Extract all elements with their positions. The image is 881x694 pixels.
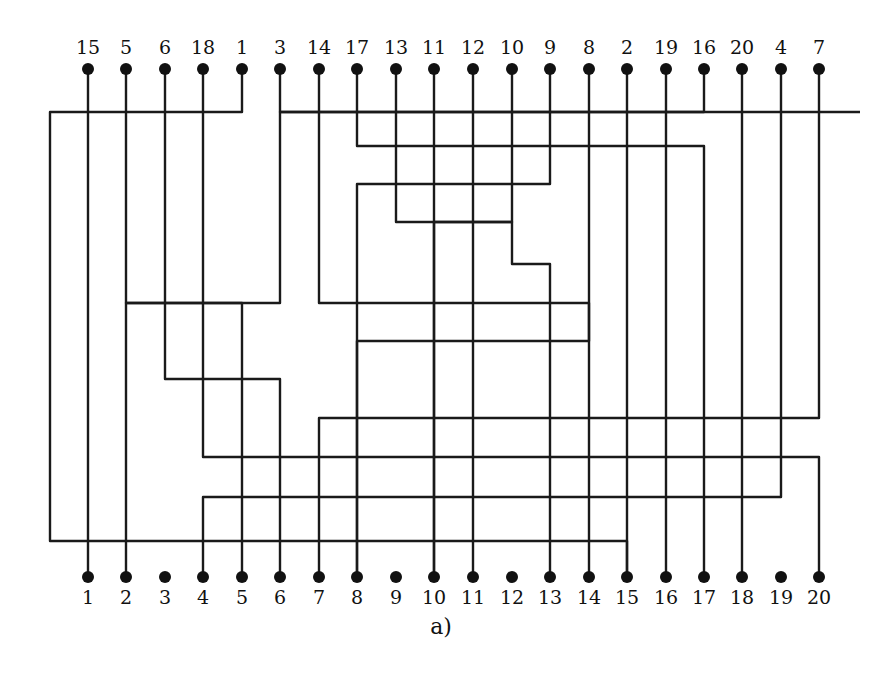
bottom-label: 3 bbox=[159, 586, 171, 608]
top-label: 15 bbox=[76, 36, 100, 58]
bottom-label: 4 bbox=[197, 586, 209, 608]
bottom-label: 7 bbox=[313, 586, 325, 608]
bottom-label: 19 bbox=[769, 586, 793, 608]
top-pin-icon bbox=[660, 63, 672, 75]
bottom-label: 16 bbox=[654, 586, 678, 608]
top-label: 4 bbox=[775, 36, 787, 58]
bottom-pin-icon bbox=[120, 571, 132, 583]
figure-caption: a) bbox=[430, 614, 452, 639]
top-pin-icon bbox=[506, 63, 518, 75]
bottom-pin-icon bbox=[313, 571, 325, 583]
bottom-label: 14 bbox=[577, 586, 601, 608]
bottom-pin-icon bbox=[698, 571, 710, 583]
bottom-pin-icon bbox=[351, 571, 363, 583]
top-label: 16 bbox=[692, 36, 716, 58]
bottom-pin-icon bbox=[197, 571, 209, 583]
top-pin-icon bbox=[621, 63, 633, 75]
top-label: 1 bbox=[236, 36, 248, 58]
top-pin-icon bbox=[698, 63, 710, 75]
bottom-label: 9 bbox=[390, 586, 402, 608]
wire-5 bbox=[126, 69, 242, 577]
top-pin-icon bbox=[351, 63, 363, 75]
top-label: 11 bbox=[422, 36, 446, 58]
bottom-pin-icon bbox=[775, 571, 787, 583]
bottom-pin-icon bbox=[82, 571, 94, 583]
bottom-pin-icon bbox=[621, 571, 633, 583]
top-label: 20 bbox=[730, 36, 754, 58]
top-pin-icon bbox=[274, 63, 286, 75]
bottom-label: 17 bbox=[692, 586, 716, 608]
wire-1 bbox=[50, 69, 242, 577]
bottom-label: 13 bbox=[538, 586, 562, 608]
bottom-label: 11 bbox=[461, 586, 485, 608]
bottom-pin-icon bbox=[813, 571, 825, 583]
bottom-label: 10 bbox=[422, 586, 446, 608]
top-label: 9 bbox=[544, 36, 556, 58]
bottom-label: 18 bbox=[730, 586, 754, 608]
top-pin-icon bbox=[736, 63, 748, 75]
bottom-pin-icon bbox=[390, 571, 402, 583]
top-label: 13 bbox=[384, 36, 408, 58]
top-pin-icon bbox=[390, 63, 402, 75]
bottom-pin-icon bbox=[428, 571, 440, 583]
top-pin-icon bbox=[313, 63, 325, 75]
top-pin-icon bbox=[813, 63, 825, 75]
wire-6 bbox=[165, 69, 280, 577]
top-label: 5 bbox=[120, 36, 132, 58]
top-label: 17 bbox=[345, 36, 369, 58]
top-pin-icon bbox=[583, 63, 595, 75]
top-label: 14 bbox=[307, 36, 331, 58]
wire-3 bbox=[280, 69, 860, 112]
top-pin-icon bbox=[236, 63, 248, 75]
top-pin-icon bbox=[120, 63, 132, 75]
bottom-label: 15 bbox=[615, 586, 639, 608]
top-label: 7 bbox=[813, 36, 825, 58]
bottom-pin-icon bbox=[467, 571, 479, 583]
top-label: 12 bbox=[461, 36, 485, 58]
bottom-pin-icon bbox=[506, 571, 518, 583]
bottom-pin-icon bbox=[736, 571, 748, 583]
bottom-pin-icon bbox=[544, 571, 556, 583]
top-pin-icon bbox=[467, 63, 479, 75]
bottom-pin-icon bbox=[236, 571, 248, 583]
wire-17 bbox=[357, 69, 704, 577]
top-pin-icon bbox=[544, 63, 556, 75]
bottom-label: 12 bbox=[500, 586, 524, 608]
top-label: 18 bbox=[191, 36, 215, 58]
top-label: 8 bbox=[583, 36, 595, 58]
bottom-pin-icon bbox=[159, 571, 171, 583]
bottom-label: 6 bbox=[274, 586, 286, 608]
top-pin-icon bbox=[82, 63, 94, 75]
bottom-pin-icon bbox=[274, 571, 286, 583]
bottom-label: 1 bbox=[82, 586, 94, 608]
bottom-label: 20 bbox=[807, 586, 831, 608]
top-pin-icon bbox=[428, 63, 440, 75]
top-label: 3 bbox=[274, 36, 286, 58]
top-pin-icon bbox=[197, 63, 209, 75]
bottom-label: 8 bbox=[351, 586, 363, 608]
top-label: 2 bbox=[621, 36, 633, 58]
top-label: 6 bbox=[159, 36, 171, 58]
top-label: 19 bbox=[654, 36, 678, 58]
top-label: 10 bbox=[500, 36, 524, 58]
bottom-pin-icon bbox=[660, 571, 672, 583]
top-pin-icon bbox=[159, 63, 171, 75]
bottom-label: 2 bbox=[120, 586, 132, 608]
top-pin-icon bbox=[775, 63, 787, 75]
bottom-pin-icon bbox=[583, 571, 595, 583]
bottom-label: 5 bbox=[236, 586, 248, 608]
